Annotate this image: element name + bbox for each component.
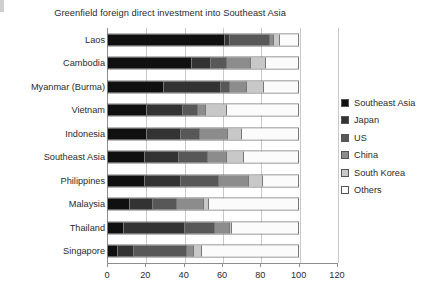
x-axis-tick <box>299 263 300 267</box>
legend-swatch-icon <box>341 116 349 124</box>
bar-segment <box>226 105 298 116</box>
chart-title: Greenfield foreign direct investment int… <box>0 8 340 18</box>
bar-segment <box>108 222 123 233</box>
y-axis-tick-label: Laos <box>85 35 105 45</box>
stacked-bar <box>107 245 299 258</box>
legend-label: Southeast Asia <box>354 98 415 108</box>
bar-row: Cambodia <box>107 52 337 76</box>
stacked-bar <box>107 151 299 164</box>
legend-item[interactable]: South Korea <box>341 164 445 182</box>
y-axis-tick-label: Philippines <box>61 176 105 186</box>
stacked-bar <box>107 57 299 70</box>
bar-segment <box>108 246 117 257</box>
stacked-bar <box>107 80 299 93</box>
bar-segment <box>263 81 297 92</box>
bar-segment <box>108 105 146 116</box>
legend-label: Japan <box>354 115 379 125</box>
bar-segment <box>205 105 226 116</box>
bar-segment <box>144 152 178 163</box>
legend-label: South Korea <box>354 168 405 178</box>
x-axis-tick-label: 0 <box>104 270 109 280</box>
bar-segment <box>152 199 177 210</box>
bar-segment <box>193 246 201 257</box>
stacked-bar <box>107 33 299 46</box>
bar-segment <box>197 105 205 116</box>
legend-swatch-icon <box>341 169 349 177</box>
y-axis-tick-label: Vietnam <box>71 105 105 115</box>
bar-segment <box>220 81 229 92</box>
stacked-bar <box>107 221 299 234</box>
bar-row: Philippines <box>107 169 337 193</box>
bar-segment <box>108 81 163 92</box>
bar-segment <box>146 105 182 116</box>
bar-segment <box>265 58 297 69</box>
bar-segment <box>184 222 214 233</box>
bar-segment <box>180 128 199 139</box>
bar-segment <box>108 58 191 69</box>
x-axis-tick-label: 100 <box>291 270 306 280</box>
stacked-bar <box>107 198 299 211</box>
stacked-bar <box>107 104 299 117</box>
x-axis-tick <box>184 263 185 267</box>
x-axis-tick-label: 40 <box>179 270 189 280</box>
bar-segment <box>182 105 197 116</box>
bar-segment <box>144 175 180 186</box>
bar-segment <box>176 199 203 210</box>
x-axis-tick-label: 20 <box>140 270 150 280</box>
x-axis-tick-label: 80 <box>255 270 265 280</box>
bar-row: Vietnam <box>107 99 337 123</box>
bar-segment <box>129 199 152 210</box>
bar-segment <box>231 222 297 233</box>
bar-segment <box>246 81 263 92</box>
bar-segment <box>201 246 298 257</box>
bar-segment <box>133 246 186 257</box>
bar-segment <box>279 34 298 45</box>
bar-segment <box>108 152 144 163</box>
legend-swatch-icon <box>341 99 349 107</box>
bar-segment <box>207 152 226 163</box>
legend-item[interactable]: Japan <box>341 112 445 130</box>
bar-segment <box>214 222 229 233</box>
bar-row: Myanmar (Burma) <box>107 75 337 99</box>
bar-segment <box>199 128 227 139</box>
bar-segment <box>241 128 298 139</box>
bar-segment <box>108 128 146 139</box>
bar-segment <box>262 175 298 186</box>
y-axis-tick-label: Southeast Asia <box>44 152 105 162</box>
bar-row: Malaysia <box>107 193 337 217</box>
x-axis-tick <box>107 263 108 267</box>
legend-swatch-icon <box>341 134 349 142</box>
x-axis-tick-label: 120 <box>329 270 344 280</box>
bar-segment <box>226 58 251 69</box>
bar-segment <box>178 152 206 163</box>
bar-segment <box>108 199 129 210</box>
bar-segment <box>191 58 210 69</box>
bar-segment <box>146 128 180 139</box>
gridline-120 <box>338 28 339 263</box>
bar-row: Singapore <box>107 240 337 264</box>
legend-swatch-icon <box>341 151 349 159</box>
bar-segment <box>163 81 220 92</box>
legend-item[interactable]: Others <box>341 182 445 200</box>
bar-segment <box>250 58 265 69</box>
stacked-bar <box>107 174 299 187</box>
legend-item[interactable]: China <box>341 147 445 165</box>
x-axis-tick-label: 60 <box>217 270 227 280</box>
x-axis-tick <box>222 263 223 267</box>
chart-figure: Greenfield foreign direct investment int… <box>0 0 448 294</box>
bar-segment <box>229 81 246 92</box>
x-axis-tick <box>337 263 338 267</box>
bar-segment <box>229 34 269 45</box>
legend-item[interactable]: US <box>341 129 445 147</box>
y-axis-tick-label: Cambodia <box>63 58 105 68</box>
bar-segment <box>210 58 225 69</box>
bar-segment <box>248 175 261 186</box>
bars-container: LaosCambodiaMyanmar (Burma)VietnamIndone… <box>107 28 337 263</box>
bar-segment <box>208 199 297 210</box>
chart-legend: Southeast AsiaJapanUSChinaSouth KoreaOth… <box>341 94 445 199</box>
legend-label: US <box>354 133 367 143</box>
y-axis-tick-label: Myanmar (Burma) <box>31 82 105 92</box>
legend-item[interactable]: Southeast Asia <box>341 94 445 112</box>
y-axis-tick-label: Indonesia <box>65 129 105 139</box>
stacked-bar <box>107 127 299 140</box>
